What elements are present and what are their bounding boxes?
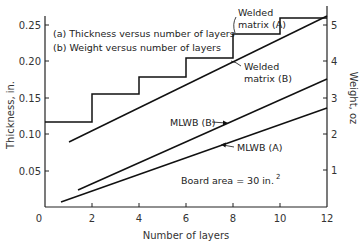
arrow-mlwb-a-icon [221,143,226,148]
svg-text:10: 10 [274,213,287,224]
series-mlwb-b [78,79,327,190]
svg-text:1: 1 [331,165,337,176]
x-tick-labels: 0 2 4 6 8 10 12 [36,213,334,224]
right-y-axis-title: Weight, oz [348,72,359,125]
right-y-tick-labels: 1 2 3 4 5 [331,20,337,176]
svg-text:8: 8 [230,213,236,224]
svg-text:2: 2 [331,129,337,140]
label-mlwb-a: MLWB (A) [237,142,282,153]
label-welded-matrix-a-1: Welded [238,7,273,18]
label-welded-matrix-a-2: matrix (A) [238,19,286,30]
legend-note-a: (a) Thickness versus number of layers [53,28,235,39]
svg-text:0.25: 0.25 [19,20,41,31]
left-y-axis-title: Thickness, in. [5,81,16,150]
board-area-note: Board area = 30 in.2 [181,173,280,186]
chart: 0 2 4 6 8 10 12 0.05 0.10 0.15 0.20 0.25… [0,0,360,246]
label-welded-matrix-b-1: Welded [244,61,279,72]
svg-text:0: 0 [36,213,42,224]
svg-text:4: 4 [136,213,142,224]
svg-text:0.20: 0.20 [19,56,41,67]
leader-welded-matrix-a [234,17,236,33]
label-mlwb-b: MLWB (B) [170,117,215,128]
svg-text:5: 5 [331,20,337,31]
svg-text:6: 6 [183,213,189,224]
svg-text:12: 12 [321,213,334,224]
svg-text:0.10: 0.10 [19,129,41,140]
left-y-tick-labels: 0.05 0.10 0.15 0.20 0.25 [19,20,41,177]
svg-text:2: 2 [89,213,95,224]
svg-text:3: 3 [331,93,337,104]
leader-welded-matrix-b [231,61,241,66]
label-welded-matrix-b-2: matrix (B) [244,73,292,84]
x-axis-title: Number of layers [143,230,229,241]
svg-text:4: 4 [331,56,337,67]
svg-text:0.15: 0.15 [19,93,41,104]
legend-note-b: (b) Weight versus number of layers [53,42,221,53]
svg-text:0.05: 0.05 [19,166,41,177]
